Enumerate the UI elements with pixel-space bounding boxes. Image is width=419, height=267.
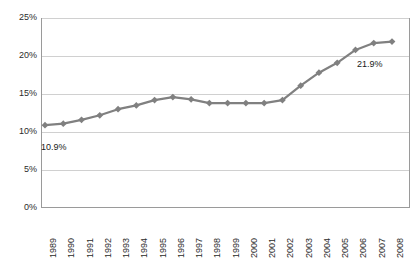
x-axis-tick-label: 2004 (323, 238, 332, 258)
x-axis-tick-label: 1998 (213, 238, 222, 258)
x-axis-tick-label: 2002 (286, 238, 295, 258)
x-axis-tick-label: 2000 (250, 238, 259, 258)
x-axis-tick-label: 1999 (232, 238, 241, 258)
data-point-marker (224, 100, 231, 107)
data-point-marker (151, 97, 158, 104)
x-axis-tick-label: 2005 (341, 238, 350, 258)
data-point-marker (78, 116, 85, 123)
data-point-marker (169, 94, 176, 101)
data-point-label: 10.9% (41, 142, 67, 152)
x-axis-tick-label: 1992 (104, 238, 113, 258)
x-axis-tick-label: 1997 (195, 238, 204, 258)
x-axis-tick-label: 1990 (67, 238, 76, 258)
x-axis-tick-label: 1996 (177, 238, 186, 258)
data-point-marker (60, 120, 67, 127)
x-axis-tick-label: 2001 (268, 238, 277, 258)
data-point-marker (389, 38, 396, 45)
x-axis-tick-label: 2007 (378, 238, 387, 258)
data-point-marker (115, 106, 122, 113)
data-point-marker (188, 96, 195, 103)
x-axis-tick-label: 2008 (396, 238, 405, 258)
x-axis-tick-label: 1995 (159, 238, 168, 258)
x-axis-tick-label: 1993 (122, 238, 131, 258)
data-point-marker (370, 40, 377, 47)
data-point-marker (261, 100, 268, 107)
x-axis-tick-label: 2006 (359, 238, 368, 258)
x-axis-tick-label: 1989 (49, 238, 58, 258)
data-point-marker (96, 112, 103, 119)
data-point-label: 21.9% (357, 59, 383, 69)
x-axis-tick-label: 1991 (86, 238, 95, 258)
x-axis-tick-label: 2003 (305, 238, 314, 258)
data-point-marker (133, 102, 140, 109)
x-axis-tick-label: 1994 (140, 238, 149, 258)
x-axis: 1989199019911992199319941995199619971998… (0, 210, 419, 267)
data-point-marker (206, 100, 213, 107)
series-markers (42, 38, 396, 128)
series-line (45, 42, 392, 126)
data-point-marker (242, 100, 249, 107)
data-point-marker (42, 122, 49, 129)
line-chart: 0%5%10%15%20%25% 19891990199119921993199… (0, 0, 419, 267)
